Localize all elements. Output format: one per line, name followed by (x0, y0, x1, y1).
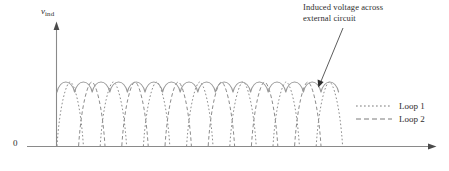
y-axis-label: vind (41, 6, 54, 18)
legend-label-loop2: Loop 2 (399, 114, 425, 124)
legend-swatch-dotted-icon (356, 102, 392, 110)
induced-voltage-figure (0, 0, 449, 171)
curve-envelope (57, 82, 339, 92)
legend-item-loop1: Loop 1 (356, 99, 446, 112)
annotation-line-2: external circuit (303, 13, 383, 24)
origin-label: 0 (13, 138, 18, 148)
y-axis-label-subscript: ind (45, 10, 54, 18)
curve-loop2 (57, 82, 321, 146)
legend-item-loop2: Loop 2 (356, 112, 446, 125)
annotation-leader-line (318, 28, 343, 88)
legend-label-loop1: Loop 1 (399, 101, 425, 111)
y-axis (54, 22, 60, 147)
x-axis (27, 144, 437, 150)
legend-swatch-dashed-icon (356, 115, 392, 123)
legend: Loop 1 Loop 2 (356, 99, 446, 125)
annotation-text: Induced voltage across external circuit (303, 2, 383, 23)
annotation-line-1: Induced voltage across (303, 2, 383, 13)
curve-loop1 (57, 82, 343, 146)
